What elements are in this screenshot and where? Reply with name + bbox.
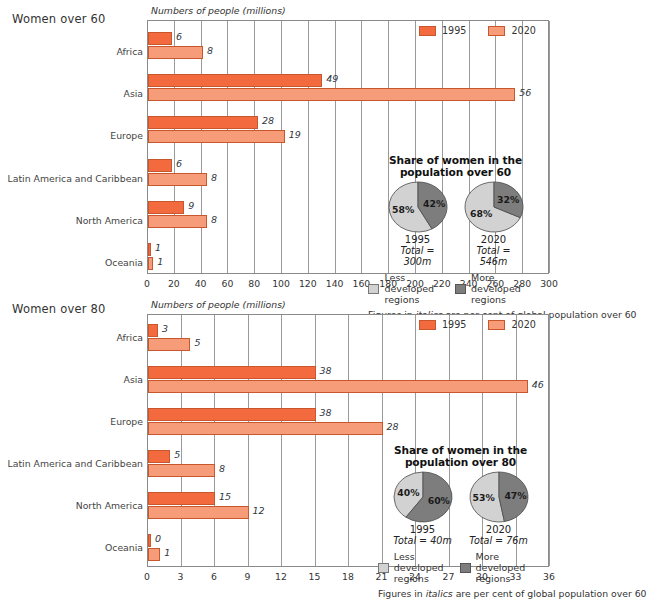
gridline [248,315,249,566]
legend-label-2020: 2020 [511,319,535,330]
pie-year-2020: 2020 [468,524,530,535]
inset-title: Share of women in thepopulation over 60 [368,155,543,178]
x-tick-80: 80 [240,278,268,289]
bar-label-1995-oceania: 1 [155,242,161,253]
pie-year-1995: 1995 [392,524,454,535]
pie-chart-1995: 58%42% [387,181,449,233]
bar-2020-oceania [148,548,160,561]
gridline [335,21,336,273]
category-label-latin-america-and-caribbean: Latin America and Caribbean [8,458,143,469]
panel-title: Women over 80 [12,302,106,316]
chart-panel-over-80: Women over 80Numbers of people (millions… [0,293,553,587]
bar-1995-latin-america-and-caribbean [148,159,172,172]
bar-label-2020-asia: 56 [519,87,531,98]
bar-label-1995-latin-america-and-caribbean: 5 [174,449,180,460]
bar-2020-africa [148,46,203,59]
bar-label-2020-latin-america-and-caribbean: 8 [211,172,217,183]
bar-1995-europe [148,408,316,421]
pie-label-less-2020: 53% [473,492,495,503]
legend-swatch-1995 [419,320,436,330]
gridline [174,21,175,273]
x-tick-3: 3 [167,571,195,582]
bar-1995-north-america [148,492,215,505]
gridline [348,315,349,566]
x-tick-15: 15 [301,571,329,582]
gridline [281,315,282,566]
swatch-less-developed [378,563,389,573]
pie-year-1995: 1995 [387,234,449,245]
category-label-latin-america-and-caribbean: Latin America and Caribbean [8,173,143,184]
bar-label-1995-africa: 3 [162,323,168,334]
x-tick-12: 12 [267,571,295,582]
gridline [361,21,362,273]
bar-1995-oceania [148,243,151,256]
bar-label-2020-africa: 5 [194,337,200,348]
bar-2020-asia [148,88,515,101]
legend-development-key: Less developed regionsMore developed reg… [378,551,543,584]
pie-label-more-2020: 32% [497,194,519,205]
bar-1995-asia [148,366,316,379]
key-more-developed-label: More developed regions [476,551,543,584]
pie-total-2020: Total = 76m [468,535,530,546]
axis-title: Numbers of people (millions) [151,299,286,310]
bar-1995-north-america [148,201,184,214]
x-tick-120: 120 [294,278,322,289]
legend-label-1995: 1995 [442,25,466,36]
bar-label-2020-oceania: 1 [157,256,163,267]
swatch-more-developed [460,563,471,573]
pie-group: 58%42%1995Total = 300m68%32%2020Total = … [368,181,543,267]
category-label-asia: Asia [124,88,143,99]
x-tick-40: 40 [187,278,215,289]
bar-2020-north-america [148,506,249,519]
x-tick-6: 6 [200,571,228,582]
bar-1995-africa [148,324,158,337]
key-less-developed-label: Less developed regions [394,551,460,584]
category-label-north-america: North America [76,215,143,226]
bar-1995-oceania [148,534,151,547]
bar-1995-latin-america-and-caribbean [148,450,170,463]
pie-year-2020: 2020 [463,234,525,245]
pie-chart-1995: 40%60% [392,471,454,523]
pie-wrapper-2020: 68%32%2020Total = 546m [463,181,525,267]
gridline [315,315,316,566]
x-tick-0: 0 [133,571,161,582]
key-less-developed: Less developed regions [378,551,460,584]
pie-chart-2020: 53%47% [468,471,530,523]
pie-wrapper-1995: 58%42%1995Total = 300m [387,181,449,267]
bar-label-2020-north-america: 8 [211,214,217,225]
axis-title: Numbers of people (millions) [151,5,286,16]
x-tick-9: 9 [234,571,262,582]
category-label-europe: Europe [110,416,143,427]
bar-2020-latin-america-and-caribbean [148,464,215,477]
bar-label-1995-europe: 28 [262,115,274,126]
gridline [201,21,202,273]
bar-2020-africa [148,338,190,351]
swatch-less-developed [368,284,379,294]
bar-label-2020-europe: 19 [289,129,301,140]
x-tick-140: 140 [321,278,349,289]
bar-1995-europe [148,116,258,129]
legend-swatch-2020 [488,320,505,330]
inset-title-line2: population over 60 [368,167,543,179]
bar-label-2020-africa: 8 [207,45,213,56]
bar-label-2020-oceania: 1 [164,547,170,558]
share-inset: Share of women in thepopulation over 804… [378,445,543,599]
panel-title: Women over 60 [12,12,106,26]
pie-total-1995: Total = 300m [387,245,449,267]
bar-label-1995-oceania: 0 [155,533,161,544]
pie-chart-2020: 68%32% [463,181,525,233]
bar-label-1995-north-america: 9 [188,200,194,211]
x-tick-100: 100 [267,278,295,289]
gridline [281,21,282,273]
bar-label-1995-north-america: 15 [219,491,231,502]
category-label-north-america: North America [76,500,143,511]
inset-title: Share of women in thepopulation over 80 [378,445,543,468]
chart-panel-over-60: Women over 60Numbers of people (millions… [0,0,553,293]
x-tick-0: 0 [133,278,161,289]
category-label-oceania: Oceania [105,257,143,268]
category-label-africa: Africa [116,332,143,343]
bar-2020-europe [148,130,285,143]
bar-1995-asia [148,74,322,87]
bar-label-2020-asia: 46 [532,379,544,390]
legend: 19952020 [419,319,536,330]
